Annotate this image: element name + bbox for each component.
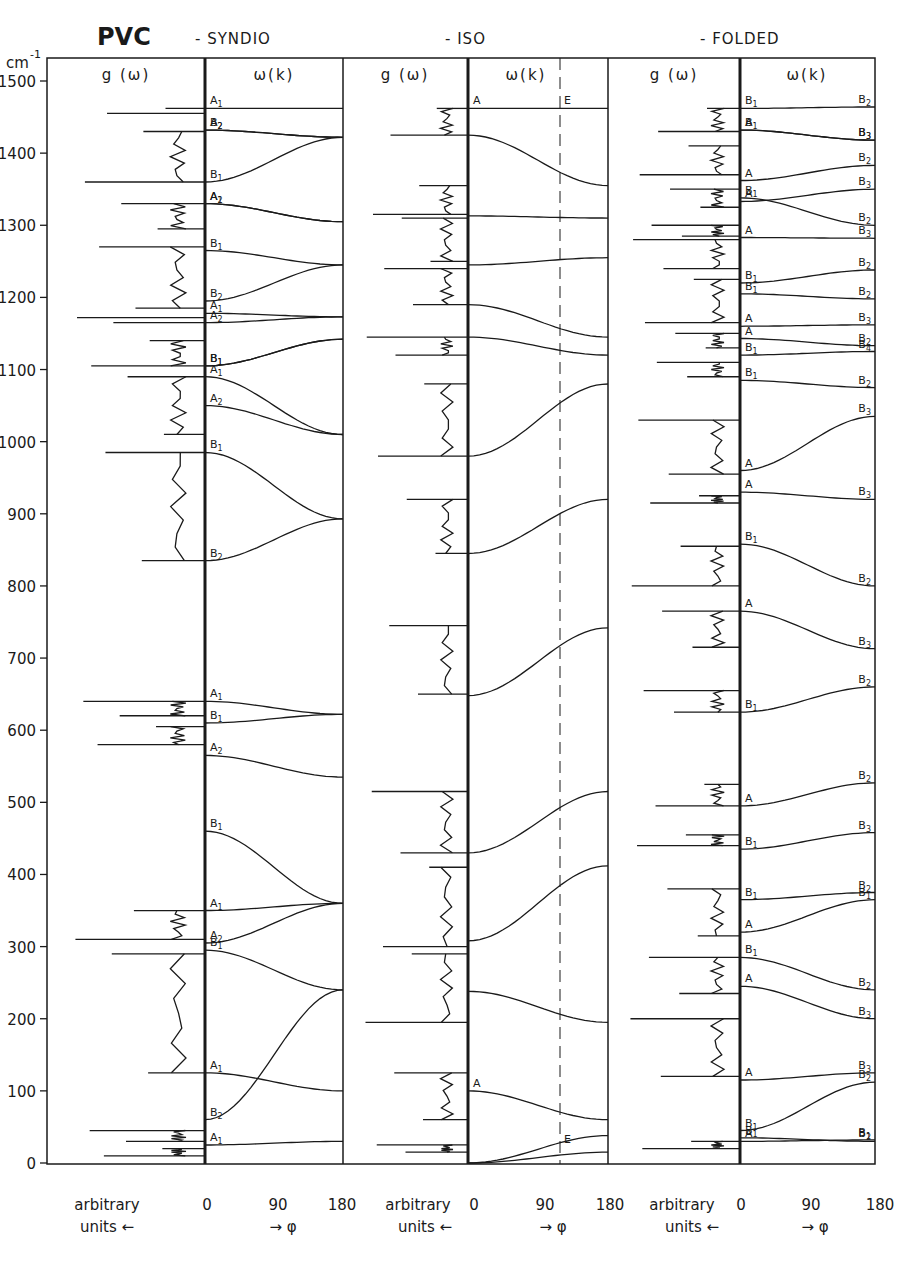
dispersion-branch bbox=[468, 792, 608, 853]
xtick-0-syndio: 0 bbox=[202, 1196, 212, 1214]
header-w-iso: ω(k) bbox=[506, 66, 547, 84]
symmetry-label: A bbox=[473, 1077, 481, 1090]
dos-band-outline bbox=[441, 218, 453, 261]
dos-band-outline bbox=[711, 189, 724, 207]
symmetry-label: A bbox=[745, 478, 753, 491]
dispersion-branch bbox=[468, 991, 608, 1022]
dispersion-branch bbox=[740, 687, 875, 712]
symmetry-label: B1 bbox=[210, 438, 223, 453]
symmetry-label: B1 bbox=[745, 116, 758, 131]
y-tick-label: 0 bbox=[26, 1155, 36, 1173]
y-tick-label: 1400 bbox=[0, 145, 36, 163]
dos-band-outline bbox=[441, 867, 453, 946]
header-g-folded: g (ω) bbox=[650, 66, 699, 84]
dos-band-outline bbox=[170, 954, 186, 1073]
dispersion-branch bbox=[740, 893, 875, 900]
symmetry-label: A1 bbox=[210, 1059, 223, 1074]
dos-band-outline bbox=[711, 334, 724, 348]
symmetry-label: B2 bbox=[210, 1106, 223, 1121]
dispersion-branch bbox=[205, 903, 343, 910]
symmetry-label: B3 bbox=[858, 402, 871, 417]
y-axis-unit-exponent: -1 bbox=[30, 48, 41, 61]
dispersion-branch bbox=[468, 258, 608, 265]
symmetry-label: A bbox=[745, 1066, 753, 1079]
dos-band-outline bbox=[711, 546, 724, 586]
dispersion-branch bbox=[468, 337, 608, 355]
xtick-180-syndio: 180 bbox=[328, 1196, 357, 1214]
xlabel-phi-iso: → φ bbox=[539, 1218, 566, 1236]
y-tick-label: 900 bbox=[7, 506, 36, 524]
dispersion-branch bbox=[740, 986, 875, 1018]
dispersion-branch bbox=[205, 265, 343, 301]
header-g-syndio: g (ω) bbox=[102, 66, 151, 84]
y-tick-label: 300 bbox=[7, 939, 36, 957]
dispersion-branch bbox=[740, 1073, 875, 1080]
dos-band-outline bbox=[441, 626, 453, 695]
dos-band-outline bbox=[711, 279, 724, 322]
dispersion-branch bbox=[205, 137, 343, 182]
symmetry-label: B1 bbox=[210, 168, 223, 183]
dos-band-outline bbox=[171, 453, 186, 561]
symmetry-label: B3 bbox=[858, 311, 871, 326]
symmetry-label: B2 bbox=[210, 547, 223, 562]
density-of-states-histograms bbox=[75, 108, 740, 1155]
y-tick-label: 500 bbox=[7, 794, 36, 812]
symmetry-label: B3 bbox=[858, 819, 871, 834]
symmetry-label: B2 bbox=[858, 151, 871, 166]
y-tick-label: 1100 bbox=[0, 362, 36, 380]
dos-band-outline bbox=[441, 954, 453, 1023]
dispersion-branch bbox=[205, 755, 343, 777]
dispersion-branch bbox=[205, 453, 343, 519]
dispersion-branch bbox=[205, 903, 343, 943]
symmetry-label: A2 bbox=[210, 392, 223, 407]
symmetry-label: A1 bbox=[210, 94, 223, 109]
symmetry-label: B2 bbox=[858, 673, 871, 688]
dos-band-outline bbox=[711, 146, 724, 175]
xlabel-units-1: units ← bbox=[80, 1218, 134, 1236]
dos-band-outline bbox=[711, 957, 724, 993]
symmetry-label: B2 bbox=[858, 572, 871, 587]
dispersion-branch bbox=[740, 238, 875, 239]
symmetry-label: A bbox=[745, 457, 753, 470]
dispersion-branch bbox=[205, 130, 343, 137]
symmetry-label: A bbox=[745, 792, 753, 805]
dispersion-branch bbox=[740, 833, 875, 850]
xtick-180-folded: 180 bbox=[866, 1196, 895, 1214]
dispersion-branch bbox=[740, 1082, 875, 1130]
phonon-dispersion-figure: PVC - SYNDIO - ISO - FOLDED cm -1 010020… bbox=[0, 0, 905, 1287]
symmetry-label: B1 bbox=[745, 184, 758, 199]
dos-band-outline bbox=[711, 108, 724, 131]
subtitle-syndio: - SYNDIO bbox=[195, 30, 271, 48]
xlabel-arbitrary-3: arbitrary bbox=[649, 1196, 714, 1214]
dispersion-branch bbox=[740, 544, 875, 586]
xtick-90-iso: 90 bbox=[535, 1196, 554, 1214]
symmetry-label: B3 bbox=[858, 175, 871, 190]
symmetry-label: A bbox=[745, 312, 753, 325]
symmetry-label: B2 bbox=[858, 374, 871, 389]
dos-band-outline bbox=[170, 727, 185, 745]
xlabel-arbitrary-1: arbitrary bbox=[74, 1196, 139, 1214]
symmetry-label: B1 bbox=[745, 698, 758, 713]
symmetry-label: B2 bbox=[858, 93, 871, 108]
dispersion-branch bbox=[468, 305, 608, 338]
symmetry-label: A1 bbox=[210, 897, 223, 912]
symmetry-label: E bbox=[564, 94, 571, 107]
xlabel-phi-syndio: → φ bbox=[269, 1218, 296, 1236]
y-axis-ticks: 0100200300400500600700800900100011001200… bbox=[0, 73, 47, 1173]
symmetry-label: B1 bbox=[210, 237, 223, 252]
header-w-folded: ω(k) bbox=[787, 66, 828, 84]
y-tick-label: 700 bbox=[7, 650, 36, 668]
dispersion-branch bbox=[468, 866, 608, 941]
xlabel-arbitrary-2: arbitrary bbox=[385, 1196, 450, 1214]
dispersion-branch bbox=[205, 406, 343, 435]
symmetry-label: A1 bbox=[210, 190, 223, 205]
dispersion-branch bbox=[740, 492, 875, 499]
dos-band-outline bbox=[711, 611, 724, 647]
dispersion-branch bbox=[740, 380, 875, 387]
dispersion-branch bbox=[740, 294, 875, 299]
dispersion-branch bbox=[740, 165, 875, 180]
chart-title: PVC bbox=[97, 23, 151, 51]
symmetry-label: A1 bbox=[210, 687, 223, 702]
subtitle-iso: - ISO bbox=[445, 30, 486, 48]
dispersion-branch bbox=[468, 1136, 608, 1163]
